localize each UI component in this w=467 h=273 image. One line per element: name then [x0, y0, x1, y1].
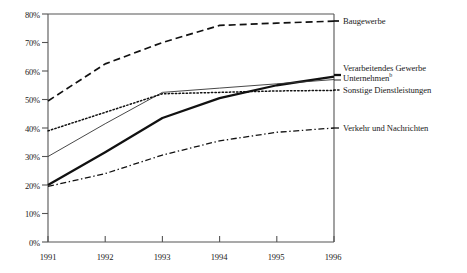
legend-label-unternehmen-footnote: b: [389, 72, 392, 78]
legend-label-unternehmen: Unternehmenb: [343, 73, 392, 84]
legend-leader-lines: [334, 21, 341, 128]
legend-label-verkehr-und-nachrichten: Verkehr und Nachrichten: [343, 123, 428, 134]
series-line-baugewerbe: [48, 21, 334, 101]
series-line-verkehr-und-nachrichten: [48, 128, 334, 186]
line-chart-figure: 80% 70% 60% 50% 40% 30% 20% 10% 0% 1991 …: [0, 0, 467, 273]
series-line-sonstige-dienstleistungen: [48, 90, 334, 130]
legend-label-sonstige-dienstleistungen: Sonstige Dienstleistungen: [343, 85, 431, 96]
legend-label-unternehmen-text: Unternehmen: [343, 73, 389, 83]
plot-area: [0, 0, 467, 273]
y-axis-tickmarks: [42, 14, 48, 242]
x-axis-tickmarks: [48, 236, 334, 242]
axis-frame: [48, 14, 334, 242]
legend-label-baugewerbe: Baugewerbe: [343, 16, 385, 27]
legend-label-verarbeitendes-gewerbe: Verarbeitendes Gewerbe: [343, 63, 426, 74]
